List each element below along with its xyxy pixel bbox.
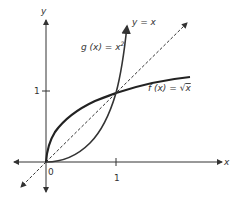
- x-axis-label: x: [223, 157, 230, 167]
- y-axis-label: y: [40, 6, 47, 16]
- x-tick-label-1: 1: [114, 173, 120, 183]
- y-tick-label-1: 1: [34, 86, 40, 96]
- x-tick-label-0: 0: [48, 167, 54, 177]
- function-graph: y = x g (x) = x2 f (x) = √x y x 0 1 1: [0, 0, 241, 201]
- g-label: g (x) = x2: [81, 40, 125, 52]
- identity-line: [21, 162, 46, 187]
- identity-label: y = x: [131, 17, 157, 27]
- f-label: f (x) = √x: [148, 83, 191, 93]
